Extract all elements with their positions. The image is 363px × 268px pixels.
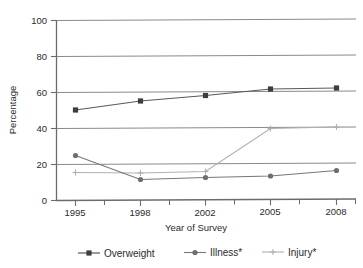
marker-illness-2008 xyxy=(334,168,339,173)
y-axis-title: Percentage xyxy=(7,86,18,135)
marker-illness-1998 xyxy=(138,177,143,182)
legend-item-injury[interactable]: Injury* xyxy=(262,247,316,258)
legend-item-overweight[interactable]: Overweight xyxy=(78,248,155,259)
cross-marker-icon xyxy=(270,249,276,255)
y-tick-label-60: 60 xyxy=(36,87,47,98)
marker-overweight-2002 xyxy=(203,93,208,98)
marker-overweight-1998 xyxy=(138,98,143,103)
marker-injury-2002 xyxy=(203,169,209,175)
legend-item-illness[interactable]: Illness* xyxy=(184,247,242,258)
marker-overweight-2005 xyxy=(268,86,273,91)
x-tick-label-2005: 2005 xyxy=(259,206,280,217)
x-tick-label-1998: 1998 xyxy=(129,207,150,218)
chart-figure: 100 80 60 40 20 0 1995 1998 2002 xyxy=(0,0,363,268)
square-marker-icon xyxy=(86,250,91,255)
gridline-80 xyxy=(56,55,356,57)
legend-label-overweight: Overweight xyxy=(104,248,155,259)
y-tick-label-80: 80 xyxy=(36,51,47,62)
gridline-100 xyxy=(56,19,356,21)
chart-legend: Overweight Illness* Injury* xyxy=(78,247,316,259)
y-tick-label-0: 0 xyxy=(42,195,47,206)
x-axis-title: Year of Survey xyxy=(165,222,227,233)
series-overweight-markers xyxy=(73,85,339,112)
y-tick-labels: 100 80 60 40 20 0 xyxy=(31,15,47,206)
x-tick-label-1995: 1995 xyxy=(64,207,85,218)
series-overweight xyxy=(73,85,339,112)
x-tick-label-2002: 2002 xyxy=(194,207,215,218)
marker-illness-2002 xyxy=(203,175,208,180)
marker-overweight-1995 xyxy=(73,107,78,112)
series-injury-markers xyxy=(73,124,340,176)
series-injury xyxy=(73,124,340,176)
y-tick-label-100: 100 xyxy=(31,15,47,26)
legend-label-injury: Injury* xyxy=(288,247,316,258)
marker-injury-2008 xyxy=(334,124,340,130)
marker-injury-1995 xyxy=(73,170,79,176)
gridline-60 xyxy=(56,91,356,93)
circle-marker-icon xyxy=(192,250,197,255)
y-tick-label-40: 40 xyxy=(36,123,47,134)
marker-illness-2005 xyxy=(268,173,273,178)
marker-injury-2005 xyxy=(268,126,274,132)
marker-illness-1995 xyxy=(73,153,78,158)
gridlines xyxy=(56,19,356,165)
series-illness xyxy=(73,153,339,182)
gridline-20 xyxy=(56,163,356,165)
x-tick-label-2008: 2008 xyxy=(325,206,346,217)
series-illness-markers xyxy=(73,153,339,182)
marker-injury-1998 xyxy=(138,170,144,176)
series-injury-line xyxy=(76,127,337,173)
marker-overweight-2008 xyxy=(334,85,339,90)
line-chart: 100 80 60 40 20 0 1995 1998 2002 xyxy=(0,0,363,268)
y-tick-label-20: 20 xyxy=(36,159,47,170)
legend-label-illness: Illness* xyxy=(210,247,242,258)
x-tick-labels: 1995 1998 2002 2005 2008 xyxy=(64,206,346,219)
y-axis-ticks xyxy=(51,21,56,201)
